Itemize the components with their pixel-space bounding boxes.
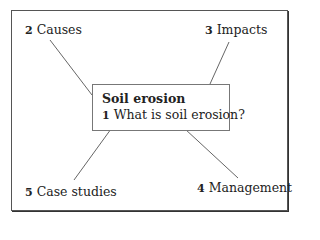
node-number: 5: [25, 186, 33, 199]
connector-management: [185, 129, 238, 178]
central-topic-title: Soil erosion: [102, 91, 185, 106]
node-label: Impacts: [217, 22, 268, 37]
node-label: Causes: [37, 22, 82, 37]
node-management: 4 Management: [197, 180, 292, 195]
node-number: 1: [102, 109, 110, 122]
node-causes: 2 Causes: [25, 22, 82, 37]
node-number: 4: [197, 182, 205, 195]
node-impacts: 3 Impacts: [205, 22, 267, 37]
central-topic-subtitle: 1 What is soil erosion?: [102, 107, 245, 122]
node-number: 3: [205, 24, 213, 37]
connector-case-studies: [74, 129, 111, 180]
node-number: 2: [25, 24, 33, 37]
node-label: Case studies: [37, 184, 117, 199]
connector-impacts: [210, 42, 229, 84]
central-topic-box: Soil erosion 1 What is soil erosion?: [92, 84, 230, 131]
node-label: What is soil erosion?: [114, 107, 245, 122]
node-label: Management: [209, 180, 292, 195]
connector-causes: [50, 40, 92, 95]
node-case-studies: 5 Case studies: [25, 184, 117, 199]
